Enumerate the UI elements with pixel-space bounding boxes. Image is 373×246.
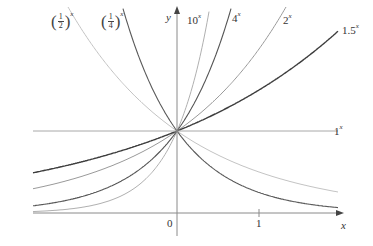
label-quarter-pow-x: (14)x <box>101 13 123 30</box>
label-onefive-pow-x: 1.5x <box>342 25 359 36</box>
quarter-denominator: 4 <box>109 22 113 30</box>
y-axis-label: y <box>166 12 171 23</box>
half-denominator: 2 <box>59 22 63 30</box>
label-ten-pow-x: 10x <box>187 15 201 26</box>
y-axis-arrow-icon <box>174 6 180 14</box>
ten-exponent: x <box>198 12 201 20</box>
exponential-functions-chart <box>0 0 373 246</box>
onefive-base: 1.5 <box>342 24 356 36</box>
x-axis-label: x <box>341 220 346 231</box>
half-exponent: x <box>70 10 73 18</box>
label-one-pow-x: 1x <box>334 126 343 137</box>
label-four-pow-x: 4x <box>232 13 241 24</box>
one-exponent: x <box>340 123 343 131</box>
x-axis-arrow-icon <box>336 210 344 216</box>
four-base: 4 <box>232 12 238 24</box>
curve-12x <box>68 7 338 192</box>
x-tick-label-1: 1 <box>256 218 262 229</box>
label-half-pow-x: (12)x <box>51 13 73 30</box>
two-exponent: x <box>289 12 292 20</box>
label-two-pow-x: 2x <box>283 15 292 26</box>
quarter-exponent: x <box>120 10 123 18</box>
four-exponent: x <box>238 10 241 18</box>
curve-14x <box>123 9 338 208</box>
two-base: 2 <box>283 14 289 26</box>
curves-group <box>33 7 338 212</box>
ten-base: 10 <box>187 14 198 26</box>
one-base: 1 <box>334 125 340 137</box>
origin-label: 0 <box>167 218 173 229</box>
curve-2x <box>33 7 286 189</box>
onefive-exponent: x <box>356 22 359 30</box>
curve-1-5x <box>33 31 338 173</box>
